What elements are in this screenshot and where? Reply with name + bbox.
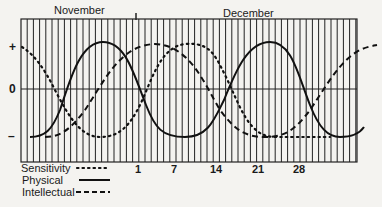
y-axis-minus: – [8, 130, 15, 142]
y-axis-zero: 0 [9, 83, 16, 95]
day-tick-14: 14 [210, 164, 222, 175]
day-tick-7: 7 [171, 164, 177, 175]
month-label-december: December [223, 8, 274, 19]
day-tick-1: 1 [135, 164, 141, 175]
day-grid [27, 19, 356, 162]
day-tick-28: 28 [293, 164, 305, 175]
biorhythm-chart: November December + 0 – 1 7 14 21 28 Sen… [0, 0, 382, 207]
day-tick-21: 21 [252, 164, 264, 175]
y-axis-plus: + [9, 41, 16, 53]
legend-physical-label: Physical [22, 175, 63, 186]
month-label-november: November [54, 5, 105, 16]
legend-sensitivity-label: Sensitivity [21, 163, 71, 174]
legend-intellectual-label: Intellectual [22, 187, 75, 198]
